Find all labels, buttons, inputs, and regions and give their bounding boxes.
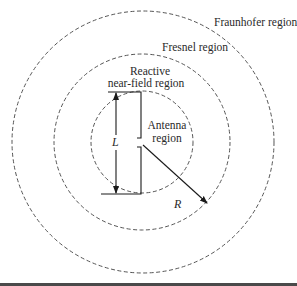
antenna-lower-arm	[101, 147, 141, 194]
length-symbol-label: L	[111, 135, 119, 149]
reactive-near-field-label-line2: near-field region	[108, 77, 185, 90]
fraunhofer-boundary-circle	[12, 11, 274, 273]
fresnel-region-label: Fresnel region	[162, 41, 228, 54]
fraunhofer-region-label: Fraunhofer region	[214, 16, 297, 29]
antenna-region-label-line1: Antenna	[148, 119, 187, 131]
antenna-upper-arm	[108, 92, 141, 138]
radius-arrow	[143, 145, 207, 203]
radius-symbol-label: R	[173, 197, 182, 211]
antenna-region-label-line2: region	[152, 132, 182, 145]
reactive-near-field-label-line1: Reactive	[130, 65, 170, 77]
antenna-field-regions-diagram: L R Fraunhofer region Fresnel region Rea…	[0, 0, 297, 286]
